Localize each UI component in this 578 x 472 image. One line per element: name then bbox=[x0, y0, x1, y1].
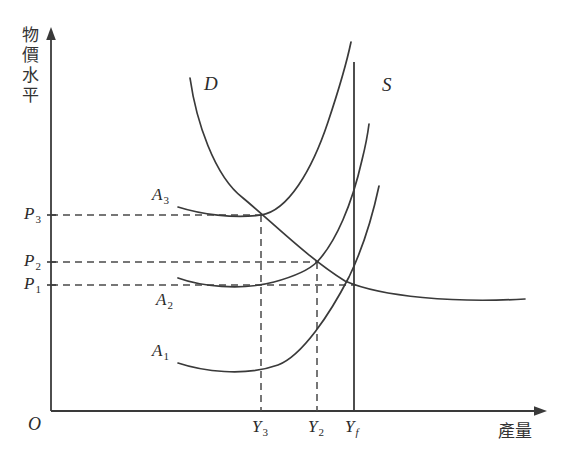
curve-label-a1: A1 bbox=[152, 342, 168, 359]
curve-label-a2-sub: 2 bbox=[167, 299, 173, 311]
curve-label-d: D bbox=[204, 74, 218, 93]
tick-p2-sub: 2 bbox=[35, 260, 41, 272]
tick-y2-text: Y bbox=[308, 417, 317, 436]
tick-p1-text: P bbox=[24, 274, 34, 293]
economics-diagram: 物價水平 產量 O D S A3 A2 A1 P3 P2 P1 Y3 Y2 Yf bbox=[0, 0, 578, 472]
tick-p1-sub: 1 bbox=[35, 283, 41, 295]
tick-p2-text: P bbox=[24, 251, 34, 270]
curve-label-a3-sub: 3 bbox=[163, 194, 169, 206]
tick-label-yf: Yf bbox=[345, 418, 358, 435]
curve-label-a2-text: A bbox=[156, 290, 166, 309]
curve-a3 bbox=[178, 42, 351, 216]
tick-label-y3: Y3 bbox=[252, 418, 267, 435]
curve-label-a1-text: A bbox=[152, 341, 162, 360]
curve-label-a2: A2 bbox=[156, 291, 172, 308]
curve-label-a3-text: A bbox=[152, 185, 162, 204]
tick-yf-text: Y bbox=[345, 417, 354, 436]
tick-label-y2: Y2 bbox=[308, 418, 323, 435]
diagram-canvas bbox=[0, 0, 578, 472]
curve-label-a3: A3 bbox=[152, 186, 168, 203]
curve-demand-d bbox=[190, 78, 525, 300]
tick-y2-sub: 2 bbox=[318, 426, 324, 438]
y-axis-label: 物價水平 bbox=[20, 26, 38, 106]
curve-label-a1-sub: 1 bbox=[163, 350, 169, 362]
x-axis bbox=[51, 406, 547, 416]
price-guide-lines bbox=[51, 215, 356, 285]
x-axis-label: 產量 bbox=[498, 423, 532, 440]
tick-p3-text: P bbox=[24, 204, 34, 223]
tick-label-p1: P1 bbox=[24, 275, 40, 292]
tick-p3-sub: 3 bbox=[35, 213, 41, 225]
origin-label: O bbox=[28, 415, 41, 433]
tick-label-p2: P2 bbox=[24, 252, 40, 269]
tick-yf-sub: f bbox=[355, 426, 358, 438]
output-guide-lines bbox=[261, 215, 317, 411]
tick-y3-text: Y bbox=[252, 417, 261, 436]
tick-y3-sub: 3 bbox=[262, 426, 268, 438]
curve-label-s: S bbox=[382, 75, 392, 94]
y-axis bbox=[46, 27, 56, 411]
tick-label-p3: P3 bbox=[24, 205, 40, 222]
